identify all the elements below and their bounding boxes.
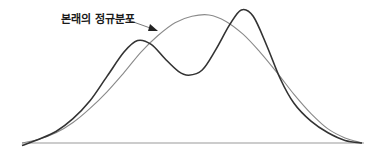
- annotation-label: 본래의 정규분포: [61, 12, 135, 26]
- original-normal-curve: [22, 15, 362, 143]
- annotation-arrowhead-icon: [148, 24, 158, 31]
- bimodal-curve: [22, 9, 362, 145]
- distribution-diagram: 본래의 정규분포: [0, 0, 383, 159]
